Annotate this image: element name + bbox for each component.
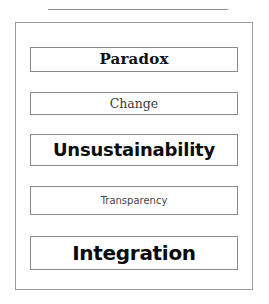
concept-label-unsustainability: Unsustainability bbox=[53, 140, 215, 160]
concept-box-unsustainability[interactable]: Unsustainability bbox=[30, 134, 238, 166]
concept-box-paradox[interactable]: Paradox bbox=[30, 47, 238, 72]
concept-label-integration: Integration bbox=[72, 242, 196, 264]
figure-canvas: Paradox Change Unsustainability Transpar… bbox=[0, 0, 269, 304]
top-divider-rule bbox=[48, 9, 228, 10]
concept-box-transparency[interactable]: Transparency bbox=[30, 186, 238, 215]
concept-label-paradox: Paradox bbox=[99, 51, 168, 68]
concept-box-integration[interactable]: Integration bbox=[30, 236, 238, 270]
concept-box-stack: Paradox Change Unsustainability Transpar… bbox=[30, 47, 238, 270]
concept-label-change: Change bbox=[110, 97, 159, 111]
concept-box-change[interactable]: Change bbox=[30, 92, 238, 115]
concept-label-transparency: Transparency bbox=[101, 195, 168, 206]
